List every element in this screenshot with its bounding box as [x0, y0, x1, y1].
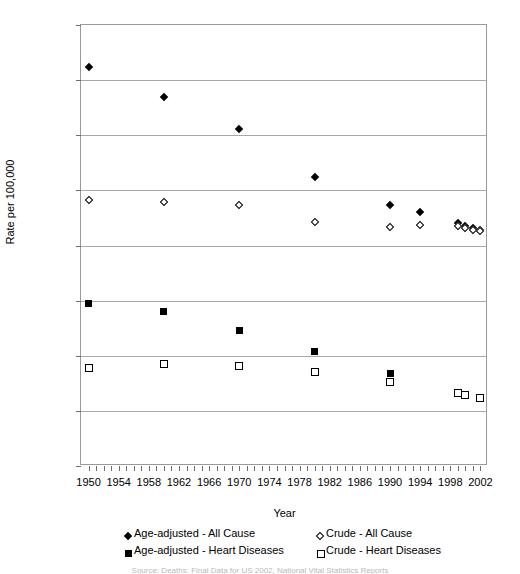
- x-tick-mark: [345, 466, 346, 471]
- legend-label: Age-adjusted - All Cause: [132, 527, 255, 539]
- gridline: [81, 356, 486, 357]
- x-tick-mark: [435, 466, 436, 471]
- x-tick-mark: [382, 466, 383, 471]
- open-diamond-icon: [416, 221, 424, 229]
- x-tick-mark: [330, 466, 331, 471]
- x-tick-mark: [390, 466, 391, 471]
- open-diamond-icon: [310, 527, 324, 539]
- open-diamond-icon: [476, 227, 484, 235]
- y-tick-mark: [76, 80, 81, 81]
- open-square-icon: [461, 391, 469, 399]
- open-square-icon: [386, 378, 394, 386]
- filled-diamond-icon: [84, 63, 92, 71]
- x-tick-mark: [398, 466, 399, 471]
- x-tick-label: 2002: [458, 476, 502, 488]
- open-diamond-icon: [160, 198, 168, 206]
- y-axis-title: Rate per 100,000: [4, 122, 16, 282]
- legend-label: Crude - All Cause: [324, 527, 412, 539]
- gridline: [81, 80, 486, 81]
- x-tick-mark: [232, 466, 233, 471]
- legend-row: Age-adjusted - Heart Diseases Crude - He…: [118, 541, 458, 558]
- figure-caption: Source: Deaths: Final Data for US 2002, …: [0, 566, 520, 574]
- x-tick-mark: [209, 466, 210, 471]
- open-square-icon: [310, 544, 324, 556]
- x-tick-mark: [428, 466, 429, 471]
- open-diamond-icon: [310, 218, 318, 226]
- x-tick-mark: [292, 466, 293, 471]
- plot-area: 1950195419581962196619701974197819821986…: [80, 24, 487, 465]
- x-tick-mark: [164, 466, 165, 471]
- x-tick-mark: [337, 466, 338, 471]
- x-tick-mark: [405, 466, 406, 471]
- open-square-icon: [160, 360, 168, 368]
- x-tick-mark: [202, 466, 203, 471]
- filled-diamond-icon: [310, 173, 318, 181]
- x-tick-mark: [458, 466, 459, 471]
- x-tick-mark: [141, 466, 142, 471]
- filled-square-icon: [118, 544, 132, 556]
- y-tick-mark: [76, 466, 81, 467]
- y-tick-mark: [76, 135, 81, 136]
- x-tick-mark: [480, 466, 481, 471]
- x-tick-mark: [217, 466, 218, 471]
- x-tick-mark: [352, 466, 353, 471]
- x-tick-mark: [156, 466, 157, 471]
- filled-square-icon: [160, 308, 167, 315]
- y-tick-mark: [76, 190, 81, 191]
- x-tick-mark: [149, 466, 150, 471]
- x-tick-mark: [171, 466, 172, 471]
- x-tick-mark: [111, 466, 112, 471]
- open-square-icon: [476, 394, 484, 402]
- y-tick-mark: [76, 411, 81, 412]
- x-tick-mark: [360, 466, 361, 471]
- y-tick-mark: [76, 356, 81, 357]
- x-tick-mark: [262, 466, 263, 471]
- x-tick-mark: [96, 466, 97, 471]
- x-axis-title: Year: [81, 507, 488, 519]
- x-tick-mark: [465, 466, 466, 471]
- x-tick-mark: [119, 466, 120, 471]
- x-tick-mark: [179, 466, 180, 471]
- x-tick-mark: [443, 466, 444, 471]
- x-tick-mark: [134, 466, 135, 471]
- y-tick-mark: [76, 246, 81, 247]
- x-tick-mark: [269, 466, 270, 471]
- x-tick-mark: [300, 466, 301, 471]
- x-tick-mark: [307, 466, 308, 471]
- filled-diamond-icon: [235, 125, 243, 133]
- legend-item-crude-all-cause: Crude - All Cause: [310, 527, 412, 539]
- filled-square-icon: [85, 300, 92, 307]
- filled-diamond-icon: [416, 208, 424, 216]
- legend-item-age-adjusted-heart-diseases: Age-adjusted - Heart Diseases: [118, 544, 310, 556]
- open-square-icon: [235, 362, 243, 370]
- gridline: [81, 190, 486, 191]
- x-tick-mark: [277, 466, 278, 471]
- x-tick-mark: [420, 466, 421, 471]
- x-tick-mark: [413, 466, 414, 471]
- x-tick-mark: [104, 466, 105, 471]
- x-tick-mark: [224, 466, 225, 471]
- gridline: [81, 135, 486, 136]
- chart-legend: Age-adjusted - All Cause Crude - All Cau…: [118, 524, 458, 558]
- open-diamond-icon: [84, 196, 92, 204]
- x-tick-mark: [450, 466, 451, 471]
- open-diamond-icon: [386, 223, 394, 231]
- x-tick-mark: [239, 466, 240, 471]
- x-tick-mark: [375, 466, 376, 471]
- x-tick-mark: [322, 466, 323, 471]
- x-tick-mark: [247, 466, 248, 471]
- legend-row: Age-adjusted - All Cause Crude - All Cau…: [118, 524, 458, 541]
- x-tick-mark: [187, 466, 188, 471]
- y-tick-mark: [76, 301, 81, 302]
- x-tick-mark: [473, 466, 474, 471]
- x-tick-mark: [89, 466, 90, 471]
- legend-item-crude-heart-diseases: Crude - Heart Diseases: [310, 544, 441, 556]
- legend-label: Crude - Heart Diseases: [324, 544, 441, 556]
- gridline: [81, 246, 486, 247]
- gridline: [81, 411, 486, 412]
- legend-item-age-adjusted-all-cause: Age-adjusted - All Cause: [118, 527, 310, 539]
- filled-square-icon: [311, 348, 318, 355]
- filled-diamond-icon: [386, 200, 394, 208]
- legend-label: Age-adjusted - Heart Diseases: [132, 544, 284, 556]
- chart-figure: Rate per 100,000 19501954195819621966197…: [0, 0, 520, 574]
